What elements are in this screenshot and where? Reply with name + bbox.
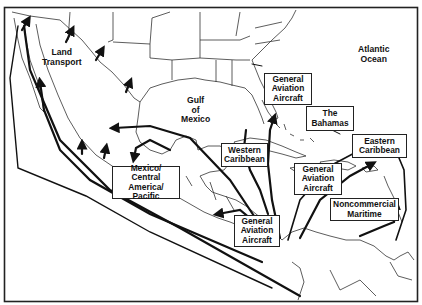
- box-western-caribbean: Western Caribbean: [221, 143, 268, 167]
- box-general-aviation-caribbean: General Aviation Aircraft: [294, 163, 342, 195]
- box-general-aviation-central-america: General Aviation Aircraft: [234, 215, 280, 247]
- label-land-transport: Land Transport: [42, 48, 82, 67]
- box-line: Bahamas: [311, 119, 348, 128]
- box-line: Aircraft: [242, 236, 272, 245]
- label-gulf-of-mexico: Gulf of Mexico: [181, 96, 210, 125]
- box-line: Maritime: [347, 210, 381, 219]
- box-line: Pacific: [132, 192, 159, 201]
- box-noncommercial-maritime: Noncommercial Maritime: [330, 198, 399, 221]
- box-general-aviation-florida: General Aviation Aircraft: [264, 73, 312, 105]
- label-line: Ocean: [358, 55, 390, 65]
- box-line: Caribbean: [224, 155, 265, 164]
- box-the-bahamas: The Bahamas: [306, 106, 354, 131]
- box-line: Caribbean: [359, 146, 400, 155]
- box-eastern-caribbean: Eastern Caribbean: [352, 134, 407, 158]
- label-line: Transport: [42, 58, 82, 68]
- box-line: Aircraft: [273, 94, 303, 103]
- box-line: Aircraft: [303, 184, 333, 193]
- label-line: Mexico: [181, 115, 210, 125]
- label-atlantic-ocean: Atlantic Ocean: [358, 45, 390, 64]
- box-line: Central America/: [113, 173, 179, 192]
- box-mexico-central-america-pacific: Mexico/ Central America/ Pacific: [112, 166, 180, 199]
